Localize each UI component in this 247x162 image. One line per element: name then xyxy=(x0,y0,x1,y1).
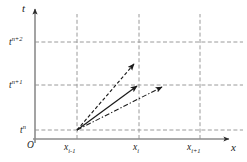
tick-label-x-im1: xi-1 xyxy=(64,143,75,154)
t-axis-label: t xyxy=(22,3,25,14)
tick-label-t-n: tn xyxy=(20,124,26,136)
origin-label: O xyxy=(27,141,34,151)
vector-dashdot-shallow xyxy=(77,87,162,130)
plot-canvas xyxy=(0,0,247,162)
vector-dashed-steep xyxy=(77,64,134,130)
vector-solid-middle xyxy=(77,86,137,130)
tick-label-x-ip1: xi+1 xyxy=(187,143,201,154)
tick-label-t-np2: tn+2 xyxy=(9,36,22,48)
x-axis-label: x xyxy=(231,142,236,153)
tick-label-t-np1: tn+1 xyxy=(9,79,22,91)
tick-label-x-i: xi xyxy=(133,143,139,154)
figure-root: t x O tn tn+1 tn+2 xi-1 xi xi+1 xyxy=(0,0,247,162)
characteristic-vectors xyxy=(77,64,162,130)
